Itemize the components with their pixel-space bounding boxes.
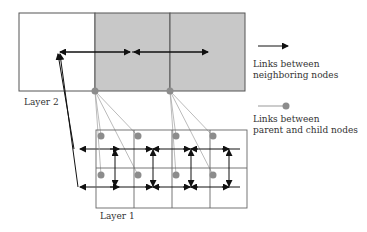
legend-parent-child-line1: Links between xyxy=(253,114,367,125)
layer1-label: Layer 1 xyxy=(100,211,135,222)
legend-parent-child-line2: parent and child nodes xyxy=(253,125,367,136)
layer2-label: Layer 2 xyxy=(24,97,59,108)
legend-neighbor-line1: Links between xyxy=(253,59,367,70)
legend-parent-child-links: Links between parent and child nodes xyxy=(253,114,367,136)
parent-child-links xyxy=(95,91,213,175)
parent-node-2 xyxy=(167,88,174,95)
line-dot-icon xyxy=(258,103,290,110)
legend-neighbor-line2: neighboring nodes xyxy=(253,70,367,81)
legend-neighbor-links: Links between neighboring nodes xyxy=(253,59,367,81)
parent-node-1 xyxy=(92,88,99,95)
layer1-grid xyxy=(96,130,247,208)
